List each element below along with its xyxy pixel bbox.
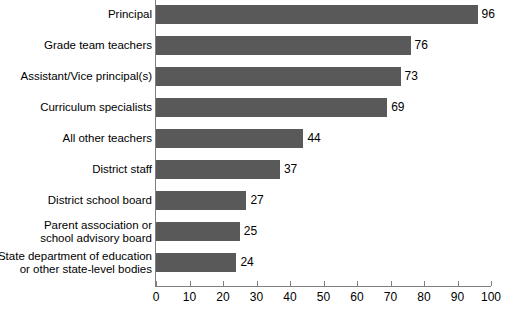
x-tick-mark	[257, 281, 258, 286]
bar	[156, 67, 401, 86]
horizontal-bar-chart: Principal96Grade team teachers76Assistan…	[0, 0, 505, 312]
bar-row: Parent association or school advisory bo…	[0, 222, 505, 241]
category-label: Grade team teachers	[0, 39, 152, 52]
bar-value-label: 96	[482, 5, 495, 24]
category-label: District staff	[0, 163, 152, 176]
x-tick-mark	[357, 281, 358, 286]
bar-row: Curriculum specialists69	[0, 98, 505, 117]
x-tick-mark	[324, 281, 325, 286]
bar-row: Grade team teachers76	[0, 36, 505, 55]
bar	[156, 129, 303, 148]
x-tick-mark	[491, 281, 492, 286]
bar	[156, 36, 411, 55]
bar-row: State department of education or other s…	[0, 253, 505, 272]
x-tick-mark	[156, 281, 157, 286]
x-tick-label: 100	[471, 289, 505, 305]
category-label: State department of education or other s…	[0, 250, 152, 275]
bar	[156, 222, 240, 241]
category-label: Curriculum specialists	[0, 101, 152, 114]
category-label: Assistant/Vice principal(s)	[0, 70, 152, 83]
bar-row: District staff37	[0, 160, 505, 179]
x-tick-mark	[424, 281, 425, 286]
bar-value-label: 24	[240, 253, 253, 272]
category-label: All other teachers	[0, 132, 152, 145]
x-axis-line	[155, 286, 491, 287]
bar-value-label: 37	[284, 160, 297, 179]
bar	[156, 160, 280, 179]
bar-value-label: 76	[415, 36, 428, 55]
bar-row: Principal96	[0, 5, 505, 24]
bar	[156, 98, 387, 117]
bar-row: District school board27	[0, 191, 505, 210]
bar-value-label: 27	[250, 191, 263, 210]
bar-row: All other teachers44	[0, 129, 505, 148]
bar-row: Assistant/Vice principal(s)73	[0, 67, 505, 86]
bar	[156, 253, 236, 272]
category-label: Principal	[0, 8, 152, 21]
bar-value-label: 69	[391, 98, 404, 117]
category-label: District school board	[0, 194, 152, 207]
x-tick-mark	[290, 281, 291, 286]
category-label: Parent association or school advisory bo…	[0, 219, 152, 244]
bar	[156, 5, 478, 24]
bar-value-label: 25	[244, 222, 257, 241]
bar-value-label: 44	[307, 129, 320, 148]
x-tick-mark	[458, 281, 459, 286]
bar	[156, 191, 246, 210]
x-tick-mark	[391, 281, 392, 286]
x-tick-mark	[223, 281, 224, 286]
x-tick-mark	[190, 281, 191, 286]
bar-value-label: 73	[405, 67, 418, 86]
